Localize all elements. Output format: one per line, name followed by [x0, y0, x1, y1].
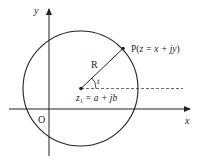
complex-plane-diagram: y x O R t z1 = a + jb P(z = x + jy): [0, 0, 200, 163]
center-label: z1 = a + jb: [75, 93, 117, 104]
radius-line: [81, 49, 123, 89]
origin-label: O: [38, 114, 45, 125]
center-point: [79, 87, 83, 91]
x-axis-label: x: [184, 115, 190, 126]
y-axis-label: y: [33, 5, 39, 16]
point-p-label: P(z = x + jy): [131, 44, 180, 55]
point-p: [121, 47, 125, 51]
angle-arc: [92, 78, 96, 89]
angle-label: t: [97, 76, 100, 86]
radius-label: R: [91, 59, 98, 70]
